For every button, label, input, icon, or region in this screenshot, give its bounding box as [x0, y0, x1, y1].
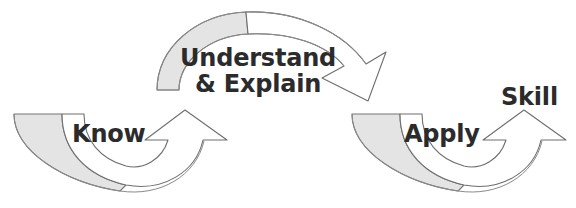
learning-cycle-diagram: Know Understand & Explain Apply Skill: [0, 0, 576, 208]
arrow-canvas: [0, 0, 576, 208]
stage-label-understand-line2: & Explain: [180, 72, 336, 98]
stage-label-skill: Skill: [501, 85, 558, 111]
stage-label-know: Know: [72, 122, 146, 148]
stage-label-understand-line1: Understand: [180, 44, 336, 72]
stage-label-apply: Apply: [404, 122, 480, 148]
stage-label-understand-explain: Understand & Explain: [180, 46, 336, 98]
